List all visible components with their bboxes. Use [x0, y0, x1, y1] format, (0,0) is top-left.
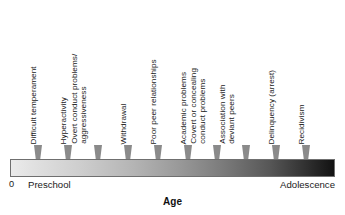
- axis-start-label: Preschool: [28, 179, 71, 190]
- timeline-marker-label: Poor peer relationships: [149, 59, 158, 144]
- axis-end-labels: 0 Preschool Adolescence: [0, 179, 345, 193]
- timeline-marker-label: Overt conduct problems/ aggressiveness: [70, 54, 89, 144]
- timeline-marker-label: Covert or concealing conduct problems: [189, 68, 208, 144]
- timeline-marker-label: Difficult temperament: [29, 66, 38, 144]
- timeline-marker-label: Hyperactivity: [59, 97, 68, 144]
- timeline-marker-label: Withdrawal: [119, 103, 128, 144]
- markers-layer: Difficult temperamentHyperactivityOvert …: [0, 0, 345, 178]
- timeline-marker-label: Academic problems: [179, 72, 188, 144]
- timeline-marker-label: Recidivism: [297, 104, 306, 144]
- axis-zero-tick-label: 0: [9, 179, 14, 189]
- developmental-timeline-figure: Difficult temperamentHyperactivityOvert …: [0, 0, 345, 215]
- timeline-marker-label: Delinquency (arrest): [267, 70, 276, 145]
- axis-end-label: Adolescence: [280, 179, 335, 190]
- timeline-marker-label: Association with deviant peers: [218, 85, 237, 144]
- axis-title-age: Age: [0, 196, 345, 207]
- age-gradient-axis-bar: [10, 159, 335, 177]
